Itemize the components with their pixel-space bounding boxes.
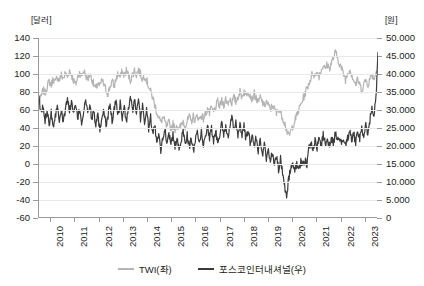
- gridline: [39, 182, 377, 183]
- x-axis-tick-label: 2022: [345, 226, 356, 247]
- right-axis-unit-label: [원]: [385, 13, 398, 25]
- right-axis-tick-label: 5.000: [386, 194, 410, 205]
- chart-legend: TWI(좌)포스코인터내셔널(우): [0, 262, 424, 276]
- legend-swatch-icon: [198, 268, 214, 270]
- gridline: [39, 218, 377, 219]
- x-axis-tick-label: 2010: [54, 226, 65, 247]
- left-axis-tick-label: 40: [0, 122, 30, 133]
- right-axis-tick-label: 15.000: [386, 158, 415, 169]
- x-axis-tick-label: 2016: [199, 226, 210, 247]
- gridline: [39, 128, 377, 129]
- gridline: [39, 200, 377, 201]
- x-axis-tick-label: 2013: [127, 226, 138, 247]
- legend-label: TWI(좌): [139, 262, 172, 276]
- x-axis-tick-label: 2011: [78, 227, 89, 247]
- gridline: [39, 74, 377, 75]
- x-axis-tick-label: 2019: [272, 226, 283, 247]
- right-axis-tick-label: 0: [386, 212, 391, 223]
- plot-area: [38, 38, 377, 218]
- x-axis-tick-label: 2014: [151, 226, 162, 247]
- right-axis-tick-label: 10.000: [386, 176, 415, 187]
- gridline: [39, 146, 377, 147]
- x-axis-tick-label: 2018: [248, 226, 259, 247]
- x-axis-tick-label: 2015: [175, 226, 186, 247]
- left-axis-tick-label: 100: [0, 68, 30, 79]
- gridline: [39, 38, 377, 39]
- x-axis-tick-label: 2017: [224, 226, 235, 247]
- left-axis-tick-label: -20: [0, 176, 30, 187]
- gridline: [39, 56, 377, 57]
- left-axis-tick-label: 80: [0, 86, 30, 97]
- right-axis-tick-label: 40.000: [386, 68, 415, 79]
- left-axis-tick-label: 120: [0, 50, 30, 61]
- legend-item-posco[interactable]: 포스코인터내셔널(우): [198, 262, 306, 276]
- gridline: [39, 110, 377, 111]
- right-axis-tick-label: 45.000: [386, 50, 415, 61]
- right-axis-tick-label: 25.000: [386, 122, 415, 133]
- right-axis-tickmark: [377, 218, 382, 219]
- legend-item-twi[interactable]: TWI(좌): [118, 262, 172, 276]
- x-axis-tick-label: 2023: [369, 226, 380, 247]
- right-axis-tick-label: 20.000: [386, 140, 415, 151]
- x-axis-tick-label: 2021: [320, 226, 331, 247]
- x-axis-tick-label: 2020: [296, 226, 307, 247]
- left-axis-tick-label: 140: [0, 32, 30, 43]
- left-axis-tick-label: 60: [0, 104, 30, 115]
- right-axis-tick-label: 30.000: [386, 104, 415, 115]
- left-axis-tick-label: 0: [0, 158, 30, 169]
- left-axis-tick-label: -60: [0, 212, 30, 223]
- legend-label: 포스코인터내셔널(우): [219, 262, 306, 276]
- gridline: [39, 164, 377, 165]
- left-axis-tick-label: -40: [0, 194, 30, 205]
- right-axis-tick-label: 35.000: [386, 86, 415, 97]
- legend-swatch-icon: [118, 268, 134, 270]
- right-axis-tick-label: 50.000: [386, 32, 415, 43]
- gridline: [39, 92, 377, 93]
- left-axis-unit-label: [달러]: [31, 13, 52, 25]
- left-axis-tick-label: 20: [0, 140, 30, 151]
- clipped-title: [0, 0, 424, 9]
- x-axis-tick-label: 2012: [103, 226, 114, 247]
- left-axis-tickmark: [33, 218, 38, 219]
- chart-figure: [달러] [원] 140120100806040200-20-40-60 50.…: [0, 0, 424, 286]
